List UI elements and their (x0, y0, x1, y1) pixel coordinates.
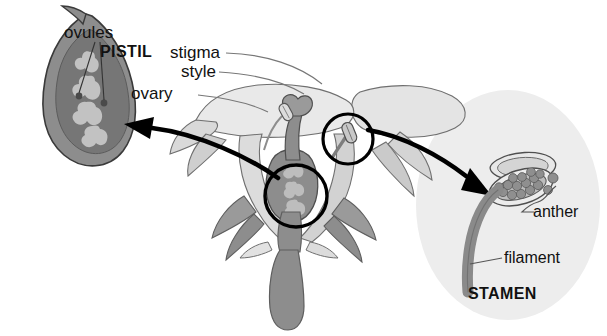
label-stamen: STAMEN (468, 286, 537, 302)
flower-anatomy-diagram: ovules PISTIL stigma style ovary anther … (0, 0, 607, 336)
ovule-dot-left (76, 93, 83, 100)
label-style: style (181, 63, 216, 80)
label-filament: filament (504, 250, 560, 266)
label-ovules: ovules (64, 24, 113, 41)
label-ovary: ovary (131, 85, 173, 102)
ovule-dot-right (101, 100, 108, 107)
label-stigma: stigma (170, 44, 220, 61)
label-anther: anther (533, 204, 578, 220)
label-pistil: PISTIL (100, 44, 152, 60)
